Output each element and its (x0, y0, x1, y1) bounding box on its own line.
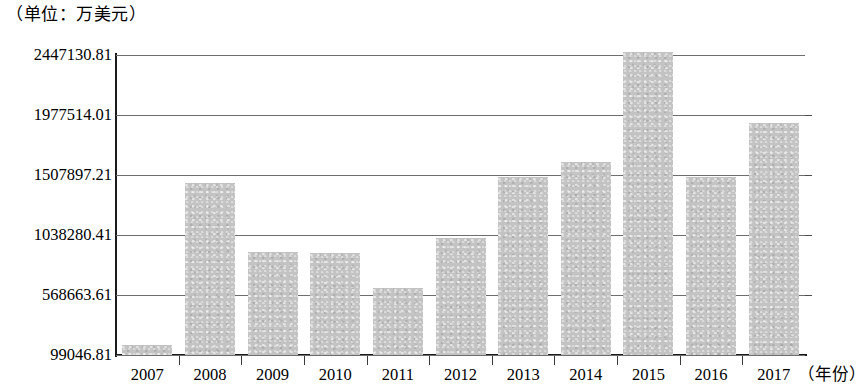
x-axis-tick (367, 356, 368, 365)
y-axis-tick-label: 1977514.01 (0, 107, 112, 124)
bar-2010 (310, 253, 360, 355)
y-axis-tick-label: 1507897.21 (0, 167, 112, 184)
x-axis-tick (429, 356, 430, 365)
bar-2015 (623, 52, 673, 355)
x-axis-tick (179, 356, 180, 365)
x-axis-tick-label: 2017 (744, 366, 804, 384)
x-axis-tick (492, 356, 493, 365)
y-axis-tick-label: 2447130.81 (0, 47, 112, 64)
x-axis-tick (304, 356, 305, 365)
gridline (116, 355, 805, 356)
x-axis-tick-label: 2007 (117, 366, 177, 384)
x-axis-tick (241, 356, 242, 365)
x-axis-tick (742, 356, 743, 365)
bar-2009 (248, 252, 298, 355)
bar-2011 (373, 288, 423, 355)
gridline (116, 55, 805, 56)
bar-2008 (185, 183, 235, 355)
y-axis-tick (805, 115, 812, 116)
y-axis-tick-label: 1038280.41 (0, 227, 112, 244)
x-axis-tick-label: 2014 (556, 366, 616, 384)
x-axis-tick-label: 2012 (431, 366, 491, 384)
y-axis-tick (805, 295, 812, 296)
x-axis-tick (617, 356, 618, 365)
bar-2007 (122, 345, 172, 355)
y-axis-tick (805, 235, 812, 236)
y-axis-tick (805, 175, 812, 176)
bar-2016 (686, 177, 736, 355)
bar-2014 (561, 162, 611, 355)
y-axis-tick-label: 99046.81 (0, 347, 112, 364)
gridline (116, 115, 805, 116)
x-axis-tick-label: 2008 (180, 366, 240, 384)
x-axis-tick-label: 2010 (305, 366, 365, 384)
x-axis-tick-label: 2015 (618, 366, 678, 384)
y-axis-labels: 99046.81568663.611038280.411507897.21197… (0, 0, 112, 387)
x-axis-tick-label: 2016 (681, 366, 741, 384)
x-axis-tick (554, 356, 555, 365)
x-axis-unit-label: （年份） (798, 366, 859, 384)
bar-2013 (498, 177, 548, 355)
x-axis-tick-label: 2013 (493, 366, 553, 384)
gridline (116, 175, 805, 176)
plot-area (116, 55, 805, 355)
bar-2017 (749, 123, 799, 355)
y-axis-tick-label: 568663.61 (0, 287, 112, 304)
x-axis-tick (680, 356, 681, 365)
bar-2012 (436, 238, 486, 355)
x-axis-tick-label: 2009 (243, 366, 303, 384)
x-axis-tick-label: 2011 (368, 366, 428, 384)
